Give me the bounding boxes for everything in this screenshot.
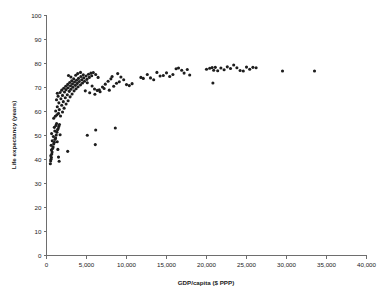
data-point bbox=[103, 87, 106, 90]
x-tick-label: 20,000 bbox=[197, 261, 216, 268]
y-tick-label: 100 bbox=[31, 12, 42, 19]
data-point bbox=[211, 66, 214, 69]
data-point bbox=[281, 69, 284, 72]
data-point bbox=[251, 66, 254, 69]
data-point bbox=[108, 89, 111, 92]
data-point bbox=[168, 75, 171, 78]
data-point bbox=[54, 109, 57, 112]
data-point bbox=[55, 98, 58, 101]
data-point bbox=[49, 162, 52, 165]
x-axis-title: GDP/capita ($ PPP) bbox=[178, 279, 234, 286]
y-tick-label: 80 bbox=[35, 60, 42, 67]
data-point bbox=[85, 78, 88, 81]
data-point bbox=[122, 78, 125, 81]
x-tick-label: 35,000 bbox=[317, 261, 336, 268]
y-tick-label: 20 bbox=[35, 204, 42, 211]
data-point bbox=[162, 74, 165, 77]
data-point bbox=[58, 123, 61, 126]
data-point bbox=[63, 107, 66, 110]
data-point bbox=[248, 68, 251, 71]
data-point bbox=[59, 115, 62, 118]
data-point bbox=[57, 101, 60, 104]
data-point bbox=[53, 129, 56, 132]
data-point bbox=[119, 75, 122, 78]
y-tick-label: 30 bbox=[35, 180, 42, 187]
data-point bbox=[232, 63, 235, 66]
data-point bbox=[51, 139, 54, 142]
x-tick-label: 15,000 bbox=[157, 261, 176, 268]
data-point bbox=[242, 69, 245, 72]
data-point bbox=[180, 69, 183, 72]
data-point bbox=[159, 74, 162, 77]
data-point bbox=[245, 66, 248, 69]
data-point bbox=[155, 71, 158, 74]
y-tick-label: 70 bbox=[35, 84, 42, 91]
data-point bbox=[111, 75, 114, 78]
data-point bbox=[97, 76, 100, 79]
data-point bbox=[57, 156, 60, 159]
data-point bbox=[62, 100, 65, 103]
data-point bbox=[67, 99, 70, 102]
data-point bbox=[211, 81, 214, 84]
data-point bbox=[55, 122, 58, 125]
y-tick-label: 40 bbox=[35, 156, 42, 163]
data-point bbox=[56, 105, 59, 108]
y-tick-label: 10 bbox=[35, 228, 42, 235]
data-point bbox=[115, 82, 118, 85]
data-point bbox=[55, 133, 58, 136]
data-point bbox=[152, 78, 155, 81]
data-point bbox=[116, 72, 119, 75]
data-point bbox=[118, 80, 121, 83]
data-point bbox=[171, 73, 174, 76]
data-point bbox=[255, 66, 258, 69]
data-point bbox=[212, 69, 215, 72]
chart-canvas: 0102030405060708090100 05,00010,00015,00… bbox=[0, 0, 389, 297]
data-point bbox=[226, 65, 229, 68]
x-tick-label: 30,000 bbox=[277, 261, 296, 268]
data-point bbox=[229, 67, 232, 70]
data-point bbox=[86, 134, 89, 137]
data-point bbox=[66, 150, 69, 153]
data-point bbox=[56, 140, 59, 143]
data-point bbox=[91, 85, 94, 88]
data-point bbox=[65, 103, 68, 106]
data-point bbox=[86, 81, 89, 84]
data-point bbox=[104, 83, 107, 86]
data-point bbox=[142, 77, 145, 80]
data-point bbox=[183, 72, 186, 75]
x-tick-label: 40,000 bbox=[357, 261, 376, 268]
data-point bbox=[58, 108, 61, 111]
data-point bbox=[216, 69, 219, 72]
data-point bbox=[146, 73, 149, 76]
data-point bbox=[56, 92, 59, 95]
data-point bbox=[61, 110, 64, 113]
data-point bbox=[67, 74, 70, 77]
data-point bbox=[56, 148, 59, 151]
data-point bbox=[50, 132, 53, 135]
data-point bbox=[107, 80, 110, 83]
data-point bbox=[69, 95, 72, 98]
data-point bbox=[205, 68, 208, 71]
data-point bbox=[177, 67, 180, 70]
y-axis: 0102030405060708090100 bbox=[31, 12, 46, 259]
data-point bbox=[149, 76, 152, 79]
data-point bbox=[90, 74, 93, 77]
data-point bbox=[125, 83, 128, 86]
data-point bbox=[313, 69, 316, 72]
data-point bbox=[219, 67, 222, 70]
data-point bbox=[82, 76, 85, 79]
data-point bbox=[223, 68, 226, 71]
data-point bbox=[92, 71, 95, 74]
data-point bbox=[114, 127, 117, 130]
data-point bbox=[71, 92, 74, 95]
data-point bbox=[94, 143, 97, 146]
data-point bbox=[93, 93, 96, 96]
data-point bbox=[58, 160, 61, 163]
data-point bbox=[239, 69, 242, 72]
data-point bbox=[72, 77, 75, 80]
data-point bbox=[98, 88, 101, 91]
data-point bbox=[57, 112, 60, 115]
data-point bbox=[94, 73, 97, 76]
data-point bbox=[64, 96, 67, 99]
data-point bbox=[83, 80, 86, 83]
